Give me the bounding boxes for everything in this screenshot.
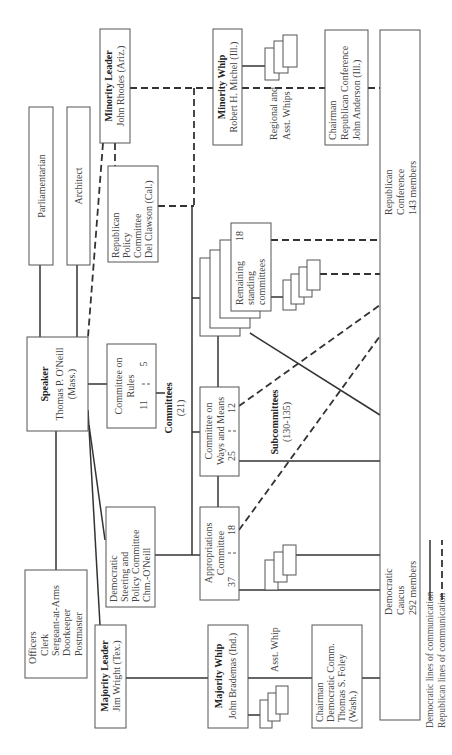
svg-text:11: 11 — [138, 400, 149, 410]
legend: Democratic lines of communication Republ… — [425, 540, 447, 728]
svg-text:Jim Wright (Tex.): Jim Wright (Tex.) — [111, 640, 123, 711]
svg-text:12: 12 — [226, 403, 237, 413]
chairman-republican-conference-node: Chairman Republican Conference John Ande… — [325, 30, 368, 145]
svg-text:Democratic Comm.: Democratic Comm. — [325, 643, 336, 722]
svg-text:John Anderson (Ill.): John Anderson (Ill.) — [351, 60, 363, 140]
svg-text:(Mass.): (Mass.) — [66, 369, 78, 399]
svg-text:Architect: Architect — [73, 167, 84, 204]
svg-text:Minority Whip: Minority Whip — [216, 54, 227, 119]
svg-text:18: 18 — [234, 231, 245, 241]
svg-text:292 members: 292 members — [407, 561, 418, 615]
svg-text:Steering and: Steering and — [119, 552, 130, 602]
svg-text:Chm.-O'Neill: Chm.-O'Neill — [141, 547, 152, 602]
svg-text:Republican: Republican — [110, 212, 121, 258]
parliamentarian-node: Parliamentarian — [29, 107, 53, 265]
svg-text:Subcommittees: Subcommittees — [269, 389, 280, 454]
svg-text:Doorkeeper: Doorkeeper — [61, 608, 72, 656]
speaker-node: Speaker Thomas P. O'Neill (Mass.) — [27, 337, 88, 431]
svg-text:Thomas P. O'Neill: Thomas P. O'Neill — [54, 347, 65, 420]
officers-node: Officers Clerk Sergeant-at-Arms Doorkeep… — [25, 570, 87, 678]
subcommittees-label: Subcommittees (130-135) — [269, 389, 293, 454]
democratic-steering-node: Democratic Steering and Policy Committee… — [106, 507, 155, 607]
majority-whip-node: Majority Whip John Brademas (Ind.) — [208, 625, 248, 728]
svg-text:Robert H. Michel (Ill.): Robert H. Michel (Ill.) — [228, 42, 240, 133]
svg-text:standing: standing — [245, 271, 256, 305]
svg-text:Republican lines of communicat: Republican lines of communication — [437, 592, 447, 728]
svg-text:37: 37 — [226, 577, 237, 587]
remaining-standing-committees-node: Remaining standing committees 18 — [200, 223, 271, 336]
svg-text:143 members: 143 members — [407, 161, 418, 215]
majority-leader-node: Majority Leader Jim Wright (Tex.) — [95, 625, 126, 728]
svg-text:Postmaster: Postmaster — [73, 611, 84, 656]
svg-text:Majority Leader: Majority Leader — [99, 640, 110, 712]
svg-text:Rules: Rules — [125, 375, 136, 398]
republican-policy-committee-node: Republican Policy Committee Del Clawson … — [108, 166, 158, 262]
svg-text:Policy: Policy — [121, 232, 132, 258]
svg-text:Policy Committee: Policy Committee — [130, 529, 141, 602]
chairman-democratic-comm-node: Chairman Democratic Comm. Thomas S. Fole… — [312, 625, 362, 728]
svg-text:(Wash.): (Wash.) — [347, 691, 359, 722]
svg-text:Asst. Whip: Asst. Whip — [269, 627, 280, 672]
svg-text:Del Clawson (Cal.): Del Clawson (Cal.) — [143, 181, 155, 259]
svg-text:Majority Whip: Majority Whip — [213, 643, 224, 708]
svg-text:Regional and: Regional and — [268, 87, 279, 140]
svg-text:Committee: Committee — [215, 530, 226, 575]
minority-leader-node: Minority Leader John Rhodes (Ariz.) — [100, 29, 130, 143]
svg-text:Chairman: Chairman — [327, 101, 338, 140]
svg-text:Committee: Committee — [132, 213, 143, 258]
svg-text:Sergeant-at-Arms: Sergeant-at-Arms — [50, 585, 61, 656]
svg-text:Remaining: Remaining — [234, 261, 245, 305]
rules-committee-node: Committee on Rules 11 5 — [107, 344, 156, 428]
svg-text:Democratic: Democratic — [383, 568, 394, 615]
svg-text:Democratic: Democratic — [108, 555, 119, 602]
appropriations-subcommittees-stack — [265, 545, 296, 590]
svg-text:25: 25 — [226, 451, 237, 461]
svg-text:Officers: Officers — [27, 631, 38, 664]
svg-text:Asst. Whips: Asst. Whips — [281, 91, 292, 140]
remaining-subcommittees-stack — [283, 260, 320, 310]
svg-text:(21): (21) — [175, 400, 187, 417]
dashed-connectors — [88, 88, 420, 551]
svg-text:Chairman: Chairman — [314, 683, 325, 722]
svg-text:(130-135): (130-135) — [281, 402, 293, 442]
ways-and-means-node: Committee on Ways and Means 25 12 — [200, 387, 239, 476]
svg-text:Committee on: Committee on — [113, 358, 124, 415]
org-chart: Parliamentarian Architect Minority Leade… — [0, 0, 452, 755]
svg-text:Appropriations: Appropriations — [203, 523, 214, 584]
svg-text:Parliamentarian: Parliamentarian — [36, 154, 47, 217]
svg-text:Republican: Republican — [383, 169, 394, 215]
svg-text:Ways and Means: Ways and Means — [215, 397, 226, 465]
svg-text:John Rhodes (Ariz.): John Rhodes (Ariz.) — [115, 46, 127, 127]
svg-text:Thomas S. Foley: Thomas S. Foley — [336, 654, 347, 722]
svg-text:5: 5 — [138, 362, 149, 367]
minority-whip-node: Minority Whip Robert H. Michel (Ill.) — [213, 29, 242, 145]
caucus-conference-box — [380, 30, 420, 720]
svg-text:Committees: Committees — [163, 382, 174, 433]
svg-text:18: 18 — [226, 525, 237, 535]
svg-text:Committee on: Committee on — [203, 403, 214, 460]
svg-text:Minority Leader: Minority Leader — [103, 50, 114, 122]
svg-text:Republican Conference: Republican Conference — [339, 45, 350, 140]
svg-text:Democratic lines of communicat: Democratic lines of communication — [425, 591, 435, 728]
svg-text:Conference: Conference — [395, 168, 406, 215]
svg-text:Caucus: Caucus — [395, 585, 406, 615]
svg-text:John Brademas (Ind.): John Brademas (Ind.) — [227, 633, 239, 719]
committees-label: Committees (21) — [163, 382, 187, 433]
svg-text:committees: committees — [256, 259, 267, 305]
architect-node: Architect — [67, 107, 90, 265]
svg-text:Speaker: Speaker — [39, 366, 50, 402]
svg-text:Clerk: Clerk — [39, 634, 50, 656]
appropriations-node: Appropriations Committee 37 18 — [200, 507, 239, 600]
